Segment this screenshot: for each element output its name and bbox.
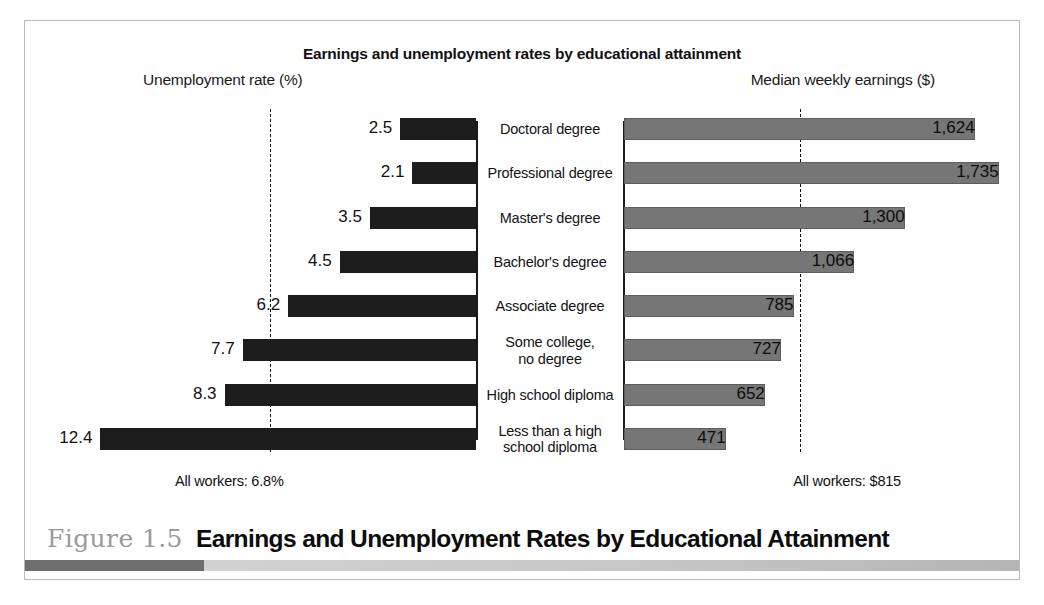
- unemployment-bar: [412, 162, 476, 184]
- bar-row: 2.5Doctoral degree1,624: [25, 107, 1021, 151]
- earnings-value-label: 652: [624, 382, 772, 406]
- figure-caption: Figure 1.5 Earnings and Unemployment Rat…: [25, 524, 1019, 553]
- category-label: Some college,no degree: [477, 328, 623, 372]
- unemployment-bar: [100, 428, 476, 450]
- category-label: Doctoral degree: [477, 107, 623, 151]
- unemployment-bar: [400, 118, 476, 140]
- decorative-rule: [25, 560, 1019, 571]
- right-axis-title: Median weekly earnings ($): [751, 71, 935, 89]
- earnings-value-label: 1,300: [624, 205, 912, 229]
- category-label: High school diploma: [477, 373, 623, 417]
- rule-light-segment: [204, 560, 1019, 571]
- unemployment-value-label: 2.1: [381, 160, 413, 184]
- earnings-value-label: 1,735: [624, 160, 1006, 184]
- left-reference-note: All workers: 6.8%: [175, 473, 284, 489]
- unemployment-value-label: 8.3: [193, 382, 225, 406]
- earnings-value-label: 471: [624, 426, 733, 450]
- earnings-value-label: 1,624: [624, 116, 982, 140]
- category-label: Less than a highschool diploma: [477, 417, 623, 461]
- unemployment-bar: [288, 295, 476, 317]
- category-label: Master's degree: [477, 196, 623, 240]
- unemployment-bar: [243, 339, 476, 361]
- figure-card: Earnings and unemployment rates by educa…: [24, 20, 1020, 580]
- category-label: Associate degree: [477, 284, 623, 328]
- plot-area: 2.5Doctoral degree1,6242.1Professional d…: [25, 107, 1021, 462]
- unemployment-value-label: 6.2: [257, 293, 289, 317]
- bar-row: 12.4Less than a highschool diploma471: [25, 417, 1021, 461]
- unemployment-bar: [340, 251, 476, 273]
- unemployment-bar: [225, 384, 476, 406]
- unemployment-value-label: 4.5: [308, 249, 340, 273]
- earnings-value-label: 785: [624, 293, 801, 317]
- unemployment-value-label: 3.5: [338, 205, 370, 229]
- earnings-value-label: 727: [624, 337, 788, 361]
- bar-row: 8.3High school diploma652: [25, 373, 1021, 417]
- earnings-value-label: 1,066: [624, 249, 861, 273]
- bar-rows: 2.5Doctoral degree1,6242.1Professional d…: [25, 107, 1021, 461]
- left-axis-title: Unemployment rate (%): [143, 71, 302, 89]
- bar-row: 3.5Master's degree1,300: [25, 196, 1021, 240]
- bar-row: 7.7Some college,no degree727: [25, 328, 1021, 372]
- bar-row: 4.5Bachelor's degree1,066: [25, 240, 1021, 284]
- category-label: Bachelor's degree: [477, 240, 623, 284]
- chart-title: Earnings and unemployment rates by educa…: [25, 45, 1019, 63]
- bar-row: 2.1Professional degree1,735: [25, 151, 1021, 195]
- unemployment-bar: [370, 207, 476, 229]
- figure-number: Figure 1.5: [47, 524, 183, 553]
- category-label: Professional degree: [477, 151, 623, 195]
- bar-row: 6.2Associate degree785: [25, 284, 1021, 328]
- right-reference-note: All workers: $815: [793, 473, 901, 489]
- unemployment-value-label: 12.4: [59, 426, 100, 450]
- figure-caption-text: Earnings and Unemployment Rates by Educa…: [196, 525, 889, 553]
- rule-dark-segment: [25, 560, 204, 571]
- unemployment-value-label: 2.5: [369, 116, 401, 140]
- unemployment-value-label: 7.7: [211, 337, 243, 361]
